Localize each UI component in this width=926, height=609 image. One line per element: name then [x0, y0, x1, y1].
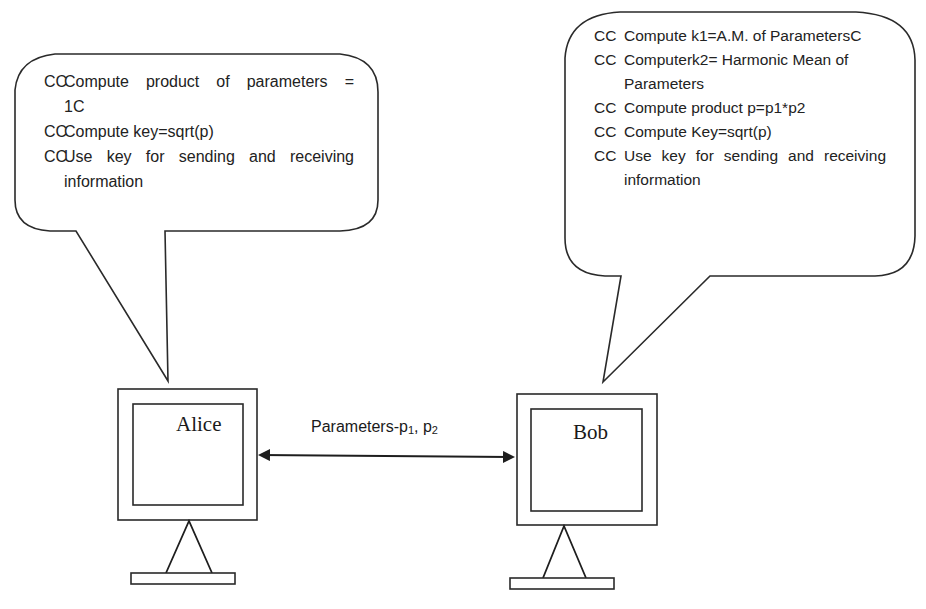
parameters-label: Parameters-p1, p2: [311, 418, 438, 436]
alice-step-3-text: Use key for sending and receiving: [64, 144, 354, 169]
bob-step-5: CC Use key for sending and receiving: [594, 144, 894, 168]
alice-step-2: CC Compute key=sqrt(p): [44, 119, 354, 144]
alice-step-1-continuation: 1C: [44, 94, 354, 119]
alice-monitor-stand: [166, 521, 212, 573]
bob-step-5-cont-text: information: [624, 168, 701, 192]
word: key: [107, 144, 132, 169]
word: =: [345, 69, 354, 94]
word: key: [662, 144, 686, 168]
alice-step-1-cont-text: 1C: [64, 94, 84, 119]
word: for: [696, 144, 714, 168]
word: product: [146, 69, 199, 94]
word: and: [249, 144, 276, 169]
bob-monitor-stand: [543, 526, 586, 578]
bob-label: Bob: [573, 420, 608, 445]
alice-step-2-text: Compute key=sqrt(p): [64, 119, 214, 144]
bob-step-5-continuation: information: [594, 168, 894, 192]
bullet-marker: CC: [594, 144, 624, 168]
bob-step-2-text: Computerk2= Harmonic Mean of: [624, 48, 848, 72]
bob-step-4-text: Compute Key=sqrt(p): [624, 120, 772, 144]
alice-step-3-cont-text: information: [64, 169, 143, 194]
alice-monitor-base: [131, 573, 235, 584]
bob-step-1-text: Compute k1=A.M. of ParametersC: [624, 24, 861, 48]
bullet-marker: CC: [594, 120, 624, 144]
bullet-marker: CC: [44, 69, 64, 94]
alice-step-1: CC Compute product of parameters =: [44, 69, 354, 94]
bob-step-4: CC Compute Key=sqrt(p): [594, 120, 894, 144]
parameters-label-prefix: Parameters-p: [311, 418, 408, 435]
word: sending: [179, 144, 235, 169]
word: Compute: [64, 69, 129, 94]
word: receiving: [824, 144, 886, 168]
word: of: [216, 69, 229, 94]
bullet-marker: CC: [594, 24, 624, 48]
bob-step-2-cont-text: Parameters: [624, 72, 704, 96]
bullet-marker: CC: [44, 144, 64, 169]
bullet-marker: CC: [594, 48, 624, 72]
alice-step-1-text: Compute product of parameters =: [64, 69, 354, 94]
bullet-marker: CC: [594, 96, 624, 120]
bob-step-5-text: Use key for sending and receiving: [624, 144, 886, 168]
word: parameters: [247, 69, 328, 94]
alice-bubble-text: CC Compute product of parameters = 1C CC…: [44, 69, 354, 194]
bob-monitor-base: [510, 578, 614, 589]
alice-step-3: CC Use key for sending and receiving: [44, 144, 354, 169]
bob-step-3-text: Compute product p=p1*p2: [624, 96, 805, 120]
bob-bubble-text: CC Compute k1=A.M. of ParametersC CC Com…: [594, 24, 894, 192]
bob-step-2-continuation: Parameters: [594, 72, 894, 96]
subscript-2: 2: [432, 424, 438, 436]
bob-step-2: CC Computerk2= Harmonic Mean of: [594, 48, 894, 72]
word: Use: [64, 144, 92, 169]
bidirectional-arrow: [260, 455, 513, 457]
word: sending: [724, 144, 778, 168]
bullet-marker: CC: [44, 119, 64, 144]
word: Use: [624, 144, 652, 168]
parameters-label-separator: , p: [414, 418, 432, 435]
alice-label: Alice: [176, 412, 221, 437]
word: and: [788, 144, 814, 168]
alice-step-3-continuation: information: [44, 169, 354, 194]
word: for: [146, 144, 165, 169]
bob-step-1: CC Compute k1=A.M. of ParametersC: [594, 24, 894, 48]
word: receiving: [290, 144, 354, 169]
bob-step-3: CC Compute product p=p1*p2: [594, 96, 894, 120]
